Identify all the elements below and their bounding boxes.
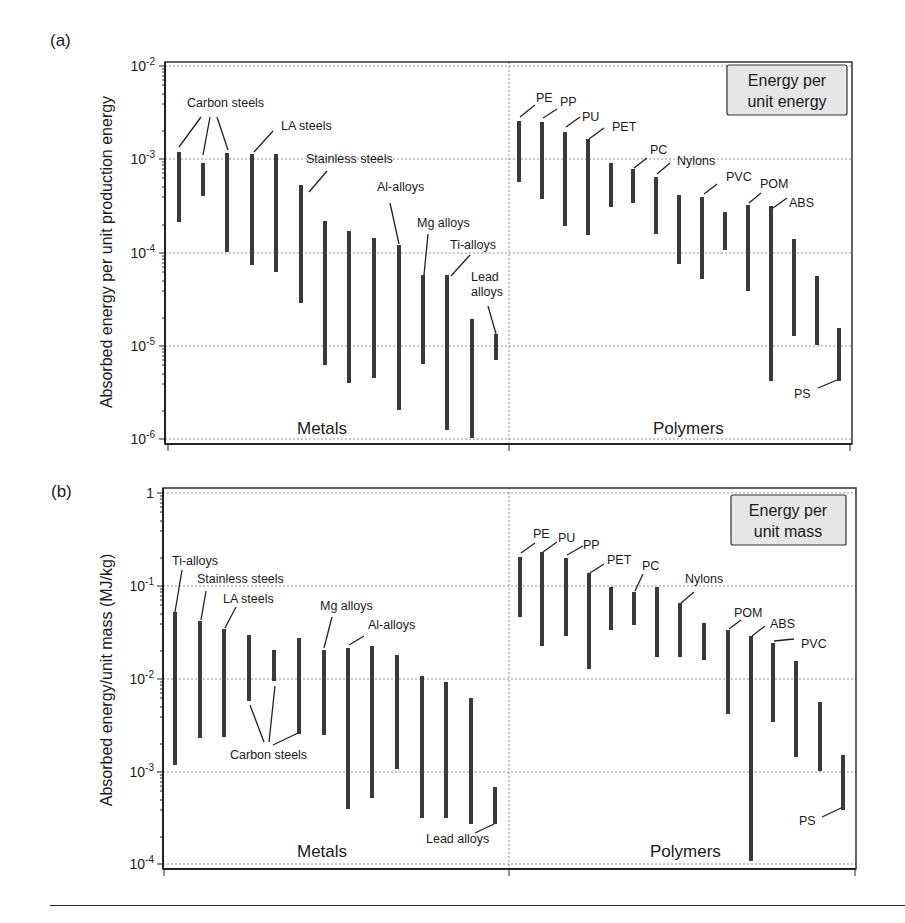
svg-text:Carbon steels: Carbon steels <box>230 748 307 762</box>
svg-text:10-4: 10-4 <box>131 243 156 261</box>
panel-label-b: (b) <box>51 482 72 501</box>
y-axis-label-b: Absorbed energy/unit mass (MJ/kg) <box>98 554 115 807</box>
svg-text:POM: POM <box>734 606 762 620</box>
svg-text:PVC: PVC <box>726 170 752 184</box>
svg-text:unit energy: unit energy <box>747 93 826 110</box>
svg-text:PU: PU <box>558 531 575 545</box>
svg-text:PE: PE <box>536 91 553 105</box>
svg-text:Al-alloys: Al-alloys <box>368 618 415 632</box>
svg-text:PU: PU <box>582 110 599 124</box>
y-tick-labels-a: 10-2 10-3 10-4 10-5 10-6 <box>131 56 156 447</box>
group-label-polymers-a: Polymers <box>653 419 724 438</box>
svg-text:ABS: ABS <box>770 617 795 631</box>
svg-text:Stainless steels: Stainless steels <box>197 572 284 586</box>
svg-text:10-4: 10-4 <box>130 854 155 872</box>
svg-text:LA steels: LA steels <box>223 592 274 606</box>
svg-text:ABS: ABS <box>789 196 814 210</box>
svg-text:10-6: 10-6 <box>131 429 156 447</box>
svg-text:Nylons: Nylons <box>677 154 715 168</box>
svg-text:POM: POM <box>760 177 788 191</box>
svg-text:10-2: 10-2 <box>131 56 156 74</box>
svg-text:Lead alloys: Lead alloys <box>426 832 489 846</box>
svg-text:unit mass: unit mass <box>754 523 822 540</box>
group-label-polymers-b: Polymers <box>650 842 721 861</box>
y-tick-labels-b: 1 10-1 10-2 10-3 10-4 <box>130 485 155 872</box>
bars-b <box>175 552 843 861</box>
svg-text:10-2: 10-2 <box>130 669 155 687</box>
svg-text:Carbon steels: Carbon steels <box>187 96 264 110</box>
svg-text:alloys: alloys <box>471 285 503 299</box>
svg-text:PS: PS <box>794 387 811 401</box>
svg-text:10-1: 10-1 <box>130 576 155 594</box>
panel-b: (b) Absorbed energy/unit mass (MJ/kg) 1 … <box>51 482 856 876</box>
legend-a: Energy per unit energy <box>727 65 847 115</box>
svg-text:Lead: Lead <box>471 270 499 284</box>
legend-b: Energy per unit mass <box>731 495 846 545</box>
svg-text:Energy per: Energy per <box>749 502 828 519</box>
svg-text:LA steels: LA steels <box>281 119 332 133</box>
svg-text:PC: PC <box>642 559 659 573</box>
panel-label-a: (a) <box>50 31 71 50</box>
figure: (a) Absorbed energy per unit production … <box>0 0 905 923</box>
svg-text:PC: PC <box>650 143 667 157</box>
annotations-a: Carbon steels LA steels Stainless steels… <box>187 91 814 401</box>
svg-text:Nylons: Nylons <box>685 572 723 586</box>
svg-text:10-3: 10-3 <box>130 762 155 780</box>
svg-text:Energy per: Energy per <box>748 72 827 89</box>
y-axis-label-a: Absorbed energy per unit production ener… <box>98 96 115 408</box>
svg-text:PVC: PVC <box>801 637 827 651</box>
svg-text:PET: PET <box>607 553 632 567</box>
svg-text:PE: PE <box>533 527 550 541</box>
group-label-metals-a: Metals <box>297 419 347 438</box>
panel-a: (a) Absorbed energy per unit production … <box>50 31 852 451</box>
svg-text:PET: PET <box>612 120 637 134</box>
svg-text:Mg alloys: Mg alloys <box>320 599 373 613</box>
svg-text:PP: PP <box>560 95 577 109</box>
svg-text:Mg alloys: Mg alloys <box>417 216 470 230</box>
svg-text:10-3: 10-3 <box>131 149 156 167</box>
svg-text:1: 1 <box>146 485 154 501</box>
svg-text:Ti-alloys: Ti-alloys <box>450 238 496 252</box>
svg-text:Al-alloys: Al-alloys <box>377 180 424 194</box>
bottom-rule <box>50 905 905 906</box>
svg-text:10-5: 10-5 <box>131 336 156 354</box>
svg-text:PS: PS <box>799 814 816 828</box>
svg-text:Ti-alloys: Ti-alloys <box>172 554 218 568</box>
svg-text:Stainless steels: Stainless steels <box>306 152 393 166</box>
svg-text:PP: PP <box>583 538 600 552</box>
group-label-metals-b: Metals <box>297 842 347 861</box>
